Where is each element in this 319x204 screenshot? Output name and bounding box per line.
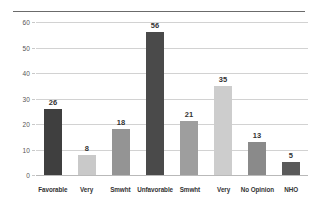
y-tick-label: 40 [23,70,30,77]
bar-slot[interactable]: 13 [240,22,274,175]
x-label-slot: Very [70,178,104,196]
y-tick-label: 20 [23,121,30,128]
x-label-slot: No Opinion [241,178,275,196]
bar-value-label: 21 [185,110,194,119]
x-axis-tick-label: NHO [284,186,298,193]
bar-value-label: 26 [49,98,58,107]
bar-value-label: 35 [219,75,228,84]
x-axis-labels: FavorableVerySmwhtUnfavorableSmwhtVeryNo… [36,178,308,196]
x-axis-tick-label: Smwht [180,186,200,193]
bar-rect[interactable] [146,32,164,175]
bar-slot[interactable]: 5 [274,22,308,175]
bar-value-label: 56 [151,21,160,30]
y-tick-label: 60 [23,19,30,26]
bar-rect[interactable] [78,155,96,175]
bar-chart: 0102030405060 26818562135135 FavorableVe… [0,0,319,204]
x-label-slot: Very [207,178,241,196]
y-tick-mark [32,22,35,23]
x-axis-tick-label: No Opinion [241,186,274,193]
bar-rect[interactable] [282,162,300,175]
bar-value-label: 13 [253,131,262,140]
y-tick-label: 10 [23,146,30,153]
x-label-slot: Smwht [103,178,137,196]
bar-slot[interactable]: 56 [138,22,172,175]
x-label-slot: Smwht [173,178,207,196]
x-axis-tick-label: Favorable [38,186,67,193]
bar-slot[interactable]: 26 [36,22,70,175]
x-axis-tick-label: Very [80,186,93,193]
bar-slot[interactable]: 35 [206,22,240,175]
gridline [36,175,308,176]
x-axis-tick-label: Very [217,186,230,193]
bar-rect[interactable] [214,86,232,175]
bar-slot[interactable]: 21 [172,22,206,175]
x-label-slot: Favorable [36,178,70,196]
y-tick-mark [32,99,35,100]
bars-group: 26818562135135 [36,22,308,175]
bar-value-label: 18 [117,118,126,127]
y-tick-mark [32,73,35,74]
x-label-slot: NHO [274,178,308,196]
bar-rect[interactable] [180,121,198,175]
x-label-slot: Unfavorable [137,178,173,196]
y-tick-label: 50 [23,44,30,51]
y-tick-label: 30 [23,95,30,102]
x-axis-tick-label: Smwht [110,186,130,193]
x-axis-tick-label: Unfavorable [137,186,173,193]
bar-value-label: 5 [289,151,293,160]
bar-rect[interactable] [248,142,266,175]
top-rule-divider [13,11,305,12]
y-tick-mark [32,124,35,125]
bar-slot[interactable]: 8 [70,22,104,175]
y-tick-mark [32,175,35,176]
bar-slot[interactable]: 18 [104,22,138,175]
bar-rect[interactable] [44,109,62,175]
y-tick-mark [32,48,35,49]
bar-value-label: 8 [85,144,89,153]
bar-rect[interactable] [112,129,130,175]
plot-area: 0102030405060 26818562135135 [36,22,308,175]
y-tick-mark [32,150,35,151]
y-tick-label: 0 [26,172,30,179]
